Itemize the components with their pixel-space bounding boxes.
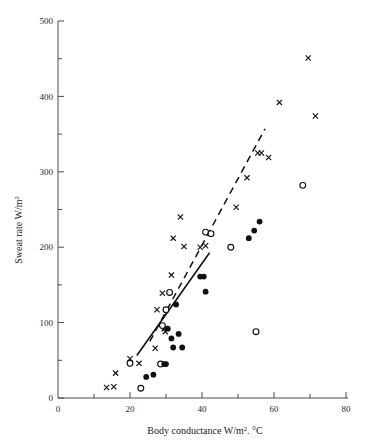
x-tick-label: 20 [126,404,136,414]
data-point-cross [306,55,311,60]
data-point-cross [181,244,186,249]
x-tick-label: 40 [198,404,208,414]
data-point-cross [313,113,318,118]
y-tick-label: 400 [40,92,54,102]
x-axis-title: Body conductance W/m2. °C [147,425,263,436]
data-point-cross [234,205,239,210]
data-point-filled-circle [173,302,179,308]
data-point-open-circle [138,385,144,391]
data-point-cross [136,361,141,366]
data-point-open-circle [253,329,259,335]
data-point-cross [160,291,165,296]
x-tick-label: 80 [342,404,352,414]
series-cross [104,55,318,390]
y-axis-tick-labels: 0100200300400500 [40,16,54,403]
data-point-open-circle [228,244,234,250]
y-tick-label: 200 [40,242,54,252]
data-point-open-circle [167,290,173,296]
data-point-cross [154,307,159,312]
x-tick-label: 0 [56,404,61,414]
data-point-cross [244,175,249,180]
x-tick-label: 60 [270,404,280,414]
data-point-cross [153,346,158,351]
data-point-cross [111,384,116,389]
data-point-cross [113,371,118,376]
data-point-cross [169,273,174,278]
data-point-cross [198,245,203,250]
y-axis-title: Sweat rate W/m2 [13,196,24,264]
data-point-filled-circle [165,326,171,332]
data-point-filled-circle [203,289,209,295]
data-point-open-circle [127,360,133,366]
data-point-cross [277,100,282,105]
data-point-filled-circle [201,274,207,280]
x-axis-tick-labels: 020406080 [56,404,351,414]
data-point-filled-circle [170,345,176,351]
data-point-cross [171,236,176,241]
data-point-filled-circle [163,361,169,367]
data-point-open-circle [160,323,166,329]
data-point-cross [259,150,264,155]
svg-text:Sweat rate W/m2: Sweat rate W/m2 [13,196,24,264]
data-point-open-circle [208,231,214,237]
data-point-filled-circle [151,372,157,378]
data-points [104,55,318,391]
data-point-cross [266,155,271,160]
data-point-open-circle [300,182,306,188]
x-axis-ticks [94,392,346,398]
series-open-circle [127,182,306,391]
data-point-filled-circle [251,228,257,234]
regression-lines [137,129,265,355]
data-point-open-circle [163,307,169,313]
svg-text:Body conductance W/m2. °C: Body conductance W/m2. °C [147,425,263,436]
data-point-cross [104,385,109,390]
data-point-filled-circle [246,235,252,241]
data-point-filled-circle [143,374,149,380]
y-axis-ticks [58,21,64,398]
figure-container: 0100200300400500 020406080 Sweat rate W/… [0,0,371,448]
data-point-filled-circle [179,345,185,351]
data-point-filled-circle [257,219,263,225]
y-tick-label: 300 [40,167,54,177]
y-tick-label: 0 [49,393,54,403]
scatter-plot: 0100200300400500 020406080 Sweat rate W/… [0,0,371,448]
y-tick-label: 100 [40,318,54,328]
data-point-filled-circle [169,336,175,342]
data-point-cross [178,214,183,219]
y-tick-label: 500 [40,16,54,26]
data-point-cross [203,243,208,248]
data-point-filled-circle [176,331,182,337]
